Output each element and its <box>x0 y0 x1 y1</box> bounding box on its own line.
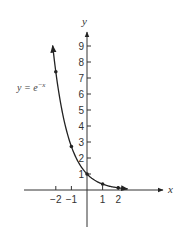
y-tick-label: 3 <box>78 137 84 148</box>
y-tick-label: 9 <box>78 41 84 52</box>
function-label-exponent: −x <box>38 81 47 89</box>
curve-y-e-neg-x <box>53 46 128 190</box>
y-ticks: 123456789 <box>78 41 91 180</box>
y-tick-label: 2 <box>78 153 84 164</box>
data-point <box>101 182 105 186</box>
y-tick-label: 6 <box>78 89 84 100</box>
x-tick-label: −2 <box>50 194 62 205</box>
function-label-lhs: y = e <box>16 82 38 93</box>
y-tick-label: 4 <box>78 121 84 132</box>
data-point <box>116 186 120 190</box>
x-tick-label: −1 <box>66 194 78 205</box>
x-tick-label: 1 <box>100 194 106 205</box>
y-tick-label: 5 <box>78 105 84 116</box>
x-axis-label: x <box>167 183 173 195</box>
y-axis-label: y <box>81 15 87 27</box>
data-point <box>54 70 58 74</box>
curve-path <box>53 46 127 189</box>
x-tick-label: 2 <box>115 194 121 205</box>
exponential-decay-chart: −2−112 123456789 x y y = e−x <box>0 0 189 239</box>
data-point <box>70 145 74 149</box>
y-tick-label: 7 <box>78 73 84 84</box>
y-tick-label: 8 <box>78 57 84 68</box>
function-label: y = e−x <box>16 81 46 93</box>
data-point <box>85 172 89 176</box>
x-ticks: −2−112 <box>50 186 121 205</box>
